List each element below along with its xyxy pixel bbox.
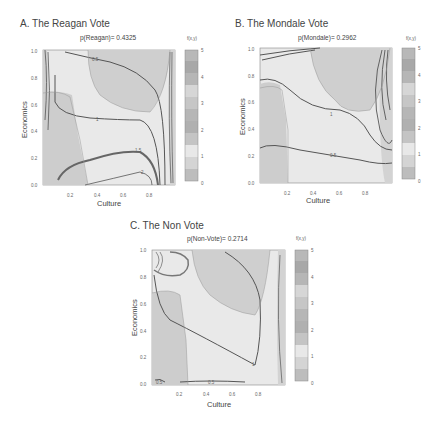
colorbar-tick: 4 <box>201 75 204 80</box>
colorbar-tick: 0 <box>201 181 204 186</box>
colorbar-tick: 2 <box>201 128 204 133</box>
contour-label: 1 <box>96 117 99 122</box>
colorbar-tick: 3 <box>418 99 421 104</box>
contour-label: 1.5 <box>135 148 141 153</box>
colorbar-tick: 4 <box>311 275 314 280</box>
panel-reagan: A. The Reagan Vote p(Reagan)= 0.4325 f(x… <box>0 0 215 200</box>
colorbar-tick: 4 <box>418 73 421 78</box>
panel-mondale: B. The Mondale Vote p(Mondale)= 0.2962 f… <box>210 0 438 200</box>
colorbar-tick: 5 <box>311 248 314 253</box>
colorbar-tick: 5 <box>418 46 421 51</box>
colorbar-tick: 1 <box>201 154 204 159</box>
colorbar-tick: 0 <box>311 381 314 386</box>
colorbar <box>400 43 430 193</box>
colorbar-tick: 0 <box>418 179 421 184</box>
colorbar-tick: 2 <box>418 126 421 131</box>
contour-label: 2 <box>141 170 144 175</box>
colorbar-tick: 5 <box>201 48 204 53</box>
colorbar <box>293 245 323 395</box>
contour-label: 1 <box>330 112 333 117</box>
colorbar <box>183 45 213 195</box>
colorbar-tick: 2 <box>311 328 314 333</box>
colorbar-tick: 3 <box>311 301 314 306</box>
contour-label: 0.5 <box>208 380 214 385</box>
colorbar-tick: 3 <box>201 101 204 106</box>
contour-label: 0.5 <box>330 153 336 158</box>
contour-label: 0.5 <box>156 380 162 385</box>
colorbar-tick: 1 <box>418 152 421 157</box>
colorbar-tick: 1 <box>311 354 314 359</box>
contour-label: 1 <box>252 362 255 367</box>
panel-nonvote: C. The Non Vote p(Non-Vote)= 0.2714 f(x,… <box>110 200 340 422</box>
contour-label: 0.5 <box>92 57 98 62</box>
